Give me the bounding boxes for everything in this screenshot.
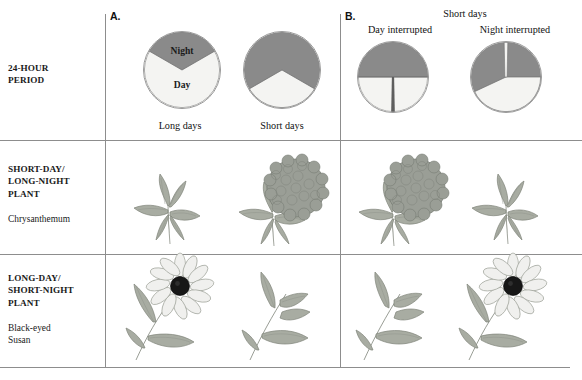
row-label-period: 24-HOUR PERIOD (8, 62, 104, 87)
panel-b-group-caption: Short days (380, 8, 550, 19)
plant-black-eyed-susan-day-interrupted (352, 268, 448, 362)
row-label-short-day-plant: SHORT-DAY/ LONG-NIGHT PLANT Chrysanthemu… (8, 163, 104, 225)
label-column-divider (105, 14, 106, 367)
row-label-long-day-plant: LONG-DAY/ SHORT-NIGHT PLANT Black-eyed S… (8, 272, 104, 347)
column-caption-day-interrupted: Day interrupted (345, 24, 455, 35)
plant-chrysanthemum-long-days (122, 160, 218, 246)
species-bes-line2: Susan (8, 334, 104, 346)
pie-label-day: Day (144, 79, 220, 90)
row-divider-2 (0, 254, 582, 255)
pie-chart-long-days: Night Day (143, 31, 221, 109)
figure-bottom-rule (0, 367, 570, 368)
chrysanthemum-bloom (384, 154, 449, 221)
panel-letter-b: B. (345, 10, 356, 22)
plant-chrysanthemum-short-days (230, 152, 340, 248)
row-label-sdp-line1: SHORT-DAY/ (8, 163, 104, 175)
chrysanthemum-bloom (264, 154, 329, 221)
row-label-ldp-line1: LONG-DAY/ (8, 272, 104, 284)
row-label-ldp-line2: SHORT-NIGHT (8, 284, 104, 296)
column-caption-long-days: Long days (130, 120, 230, 131)
row-label-sdp-line2: LONG-NIGHT (8, 175, 104, 187)
pie-chart-night-interrupted (470, 41, 542, 113)
row-divider-1 (0, 140, 582, 141)
pie-chart-day-interrupted (357, 41, 429, 113)
plant-chrysanthemum-day-interrupted (350, 152, 460, 248)
species-bes-line1: Black-eyed (8, 322, 104, 334)
photoperiodism-figure: A. B. 24-HOUR PERIOD SHORT-DAY/ LONG-NIG… (0, 0, 582, 380)
plant-black-eyed-susan-long-days (122, 262, 226, 362)
species-name-black-eyed-susan: Black-eyed Susan (8, 322, 104, 346)
row-label-ldp-line3: PLANT (8, 297, 104, 309)
pie-label-night: Night (144, 45, 220, 56)
column-caption-night-interrupted: Night interrupted (455, 24, 575, 35)
plant-black-eyed-susan-short-days (238, 268, 334, 362)
plant-chrysanthemum-night-interrupted (460, 160, 556, 246)
panel-letter-a: A. (110, 10, 121, 22)
row-label-sdp-line3: PLANT (8, 188, 104, 200)
black-eyed-susan-bloom (478, 253, 548, 321)
column-caption-short-days: Short days (232, 120, 332, 131)
panel-ab-divider (340, 14, 341, 367)
black-eyed-susan-bloom (145, 253, 215, 321)
row-label-period-line1: 24-HOUR (8, 62, 104, 74)
plant-black-eyed-susan-night-interrupted (455, 262, 559, 362)
pie-chart-short-days (243, 31, 321, 109)
species-name-chrysanthemum: Chrysanthemum (8, 213, 104, 225)
row-label-period-line2: PERIOD (8, 74, 104, 86)
